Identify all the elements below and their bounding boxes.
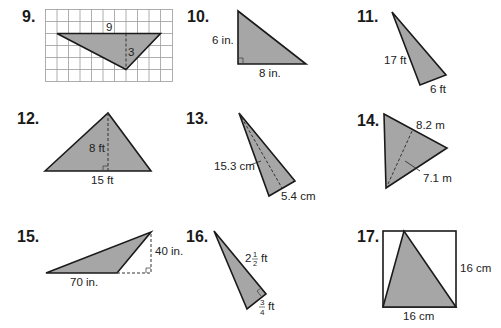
figure-13-height-label: 15.3 cm bbox=[214, 160, 255, 172]
svg-text:2: 2 bbox=[253, 259, 257, 268]
svg-text:4: 4 bbox=[260, 308, 265, 317]
figure-9-triangle bbox=[57, 34, 161, 70]
figure-12-height-label: 8 ft bbox=[89, 142, 106, 154]
figure-15-right-angle bbox=[146, 268, 151, 273]
figure-9-height-label: 3 bbox=[128, 46, 134, 58]
svg-text:ft: ft bbox=[268, 300, 275, 312]
figure-14-base-label: 8.2 m bbox=[416, 119, 445, 131]
figure-15-base-label: 70 in. bbox=[70, 276, 98, 288]
figure-13-base-label: 5.4 cm bbox=[281, 190, 316, 202]
figure-17-base-label: 16 cm bbox=[403, 310, 434, 322]
figure-10-height-label: 6 in. bbox=[212, 34, 234, 46]
figure-10-triangle bbox=[238, 11, 306, 64]
svg-text:2: 2 bbox=[245, 252, 251, 264]
figure-14-height-label: 7.1 m bbox=[423, 172, 452, 184]
figure-11-base-label: 6 ft bbox=[430, 83, 447, 95]
figure-13-triangle bbox=[239, 113, 295, 196]
figure-12-base-label: 15 ft bbox=[91, 174, 114, 186]
figure-16-triangle bbox=[214, 231, 266, 309]
figure-15-height-label: 40 in. bbox=[155, 245, 183, 257]
figure-9-base-label: 9 bbox=[106, 21, 112, 33]
figure-11-triangle bbox=[392, 12, 446, 85]
svg-text:3: 3 bbox=[260, 298, 265, 307]
svg-text:1: 1 bbox=[253, 250, 257, 259]
figure-10-base-label: 8 in. bbox=[259, 67, 281, 79]
figure-16-height-label: 2 1 2 ft bbox=[245, 250, 268, 268]
figure-15-triangle bbox=[46, 232, 151, 273]
worksheet-figures: 9 3 6 in. 8 in. 17 ft 6 ft 8 ft 15 ft 15… bbox=[0, 0, 501, 328]
figure-11-height-label: 17 ft bbox=[384, 54, 407, 66]
svg-text:ft: ft bbox=[261, 252, 268, 264]
figure-17-height-label: 16 cm bbox=[460, 262, 491, 274]
figure-16-base-label: 3 4 ft bbox=[259, 298, 275, 317]
